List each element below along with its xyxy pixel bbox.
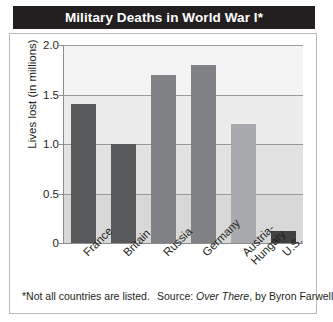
plot-background-band bbox=[64, 95, 303, 145]
page-title: Military Deaths in World War I* bbox=[65, 10, 263, 25]
bar bbox=[151, 75, 176, 243]
y-tick-mark bbox=[59, 194, 64, 195]
y-tick-mark bbox=[59, 95, 64, 96]
y-tick-mark bbox=[59, 45, 64, 46]
y-tick-label: 0.5 bbox=[43, 188, 59, 200]
y-gridline bbox=[64, 194, 303, 195]
chart-title-banner: Military Deaths in World War I* bbox=[13, 6, 315, 29]
y-tick-label: 1.0 bbox=[43, 138, 59, 150]
y-gridline bbox=[64, 144, 303, 145]
plot-background-band bbox=[64, 45, 303, 95]
y-tick-label: 1.5 bbox=[43, 89, 59, 101]
source-title: Over There bbox=[196, 290, 249, 302]
y-tick-mark bbox=[59, 144, 64, 145]
source-prefix: Source: bbox=[157, 290, 196, 302]
plot-area bbox=[63, 45, 303, 244]
bar bbox=[71, 104, 96, 243]
y-gridline bbox=[64, 95, 303, 96]
chart-source: Source: Over There, by Byron Farwell bbox=[157, 290, 333, 302]
y-axis-tick-labels: 00.51.01.52.0 bbox=[27, 45, 59, 244]
y-tick-label: 2.0 bbox=[43, 39, 59, 51]
y-tick-mark bbox=[59, 243, 64, 244]
chart-footnote: *Not all countries are listed. bbox=[22, 290, 150, 302]
bar bbox=[191, 65, 216, 243]
plot-background-band bbox=[64, 144, 303, 194]
y-gridline bbox=[64, 45, 303, 46]
source-suffix: , by Byron Farwell bbox=[249, 290, 333, 302]
bar bbox=[111, 144, 136, 243]
